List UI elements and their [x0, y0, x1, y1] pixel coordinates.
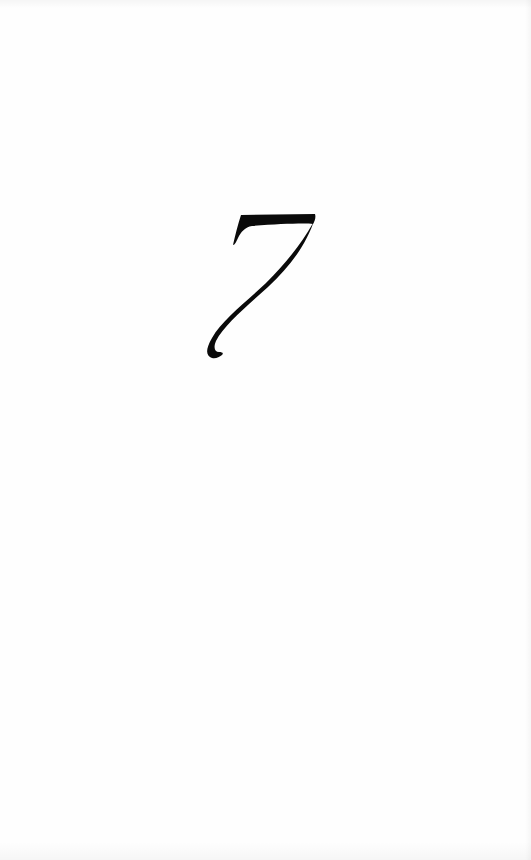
chapter-number-text: 7: [325, 208, 326, 209]
numeral-seven-icon: [200, 208, 325, 368]
chapter-number: 7: [200, 208, 325, 368]
scan-bleed-bottom: [0, 842, 531, 860]
book-page: 7: [0, 0, 531, 860]
scan-bleed-top: [0, 0, 531, 8]
scan-edge-right: [525, 0, 531, 860]
